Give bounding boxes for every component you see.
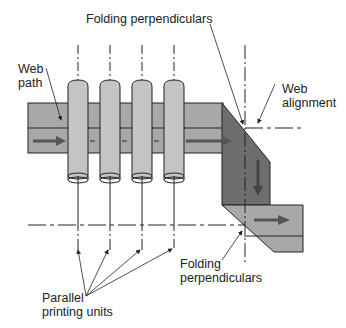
printing-unit-4 [164, 45, 184, 248]
web-band [28, 103, 223, 153]
label-web-alignment-2: alignment [282, 96, 337, 110]
label-folding-perpendiculars-bottom-2: perpendiculars [180, 271, 262, 285]
label-folding-perpendiculars-bottom-1: Folding [180, 257, 221, 271]
printing-unit-2 [100, 45, 120, 250]
label-web-path-1: Web [18, 62, 44, 76]
output-web [222, 205, 303, 252]
web-path-diagram: Folding perpendiculars Web path Web alig… [0, 0, 346, 328]
label-parallel-units-1: Parallel [42, 291, 84, 305]
label-web-alignment-1: Web [282, 82, 308, 96]
label-web-path-2: path [18, 76, 42, 90]
folding-section [222, 103, 270, 205]
printing-unit-3 [132, 45, 152, 250]
label-parallel-units-2: printing units [42, 305, 113, 319]
printing-unit-1 [68, 45, 88, 250]
label-folding-perpendiculars-top: Folding perpendiculars [86, 12, 212, 26]
